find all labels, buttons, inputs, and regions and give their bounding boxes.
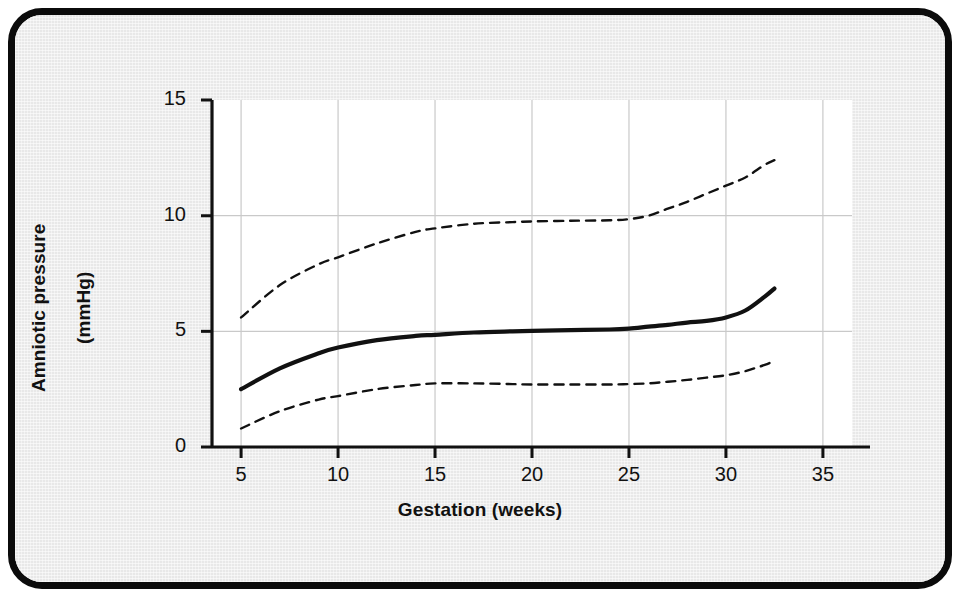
y-tick-label-0: 0: [140, 434, 186, 457]
x-tick-label-25: 25: [609, 463, 649, 486]
x-tick-label-5: 5: [221, 463, 261, 486]
y-axis-title: Amniotic pressure (mmHg): [8, 188, 96, 428]
x-tick-label-30: 30: [706, 463, 746, 486]
y-axis-title-line1: Amniotic pressure: [29, 224, 50, 393]
y-tick-label-5: 5: [140, 318, 186, 341]
y-tick-label-15: 15: [140, 87, 186, 110]
x-tick-label-10: 10: [318, 463, 358, 486]
figure-frame: 5101520253035051015 Gestation (weeks) Am…: [8, 8, 952, 589]
x-tick-label-15: 15: [415, 463, 455, 486]
x-tick-label-20: 20: [512, 463, 552, 486]
y-axis-title-line2: (mmHg): [73, 272, 94, 344]
y-tick-label-10: 10: [140, 203, 186, 226]
x-tick-label-35: 35: [803, 463, 843, 486]
x-axis-title: Gestation (weeks): [15, 499, 945, 521]
